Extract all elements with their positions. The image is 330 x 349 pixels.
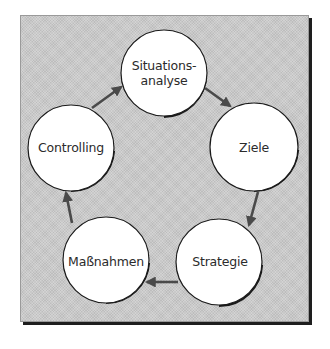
cycle-diagram: Situations- analyse Ziele Strategie Maßn… bbox=[0, 0, 330, 349]
node-label: Maßnahmen bbox=[68, 254, 144, 269]
node-massnahmen: Maßnahmen bbox=[63, 217, 149, 303]
node-label: Ziele bbox=[239, 140, 269, 155]
node-label: Controlling bbox=[38, 140, 104, 155]
node-label-line-2: analyse bbox=[141, 73, 188, 88]
arrow-situationsanalyse-to-ziele bbox=[205, 88, 230, 106]
node-label: Strategie bbox=[192, 254, 248, 269]
node-strategie: Strategie bbox=[176, 219, 262, 306]
node-label-line-1: Situations- bbox=[132, 58, 197, 73]
arrow-ziele-to-strategie bbox=[249, 192, 258, 225]
arrow-massnahmen-to-controlling bbox=[66, 193, 72, 223]
node-controlling: Controlling bbox=[28, 105, 114, 191]
arrow-controlling-to-situationsanalyse bbox=[92, 87, 121, 108]
node-situationsanalyse: Situations- analyse bbox=[121, 30, 207, 117]
node-ziele: Ziele bbox=[210, 103, 298, 191]
